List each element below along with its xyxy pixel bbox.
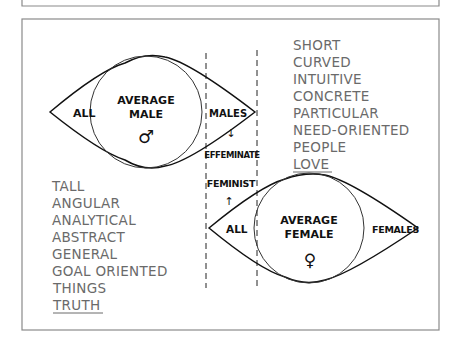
male-trait-underlined: TRUTH [52,297,100,313]
female-traits-list: SHORT CURVED INTUITIVE CONCRETE PARTICUL… [293,37,410,172]
effeminate-label: EFFEMINATE [204,150,260,160]
female-trait: SHORT [293,37,341,53]
female-trait: PEOPLE [293,139,346,155]
male-trait: GENERAL [52,246,117,262]
male-trait: ABSTRACT [52,229,125,245]
male-traits-list: TALL ANGULAR ANALYTICAL ABSTRACT GENERAL… [51,178,168,313]
male-trait: TALL [51,178,85,194]
top-frame [22,0,439,6]
male-trait: ANALYTICAL [52,212,136,228]
female-trait: PARTICULAR [293,105,379,121]
male-center-label-1: AVERAGE [117,94,174,107]
gender-distribution-diagram: ALL AVERAGE MALE ♂ MALES ↓ EFFEMINATE FE… [0,0,465,345]
female-trait: NEED-ORIENTED [293,122,410,138]
female-symbol-icon: ♀ [304,250,316,270]
male-center-label-2: MALE [129,108,163,121]
male-right-label: MALES [209,108,247,119]
female-center-label-1: AVERAGE [280,214,337,227]
male-symbol-icon: ♂ [138,126,154,147]
female-trait-underlined: LOVE [293,156,329,172]
female-lens: ALL AVERAGE FEMALE ♀ FEMALES [209,173,420,283]
female-trait: CONCRETE [293,88,370,104]
female-center-label-2: FEMALE [284,228,333,241]
male-trait: THINGS [52,280,106,296]
male-trait: GOAL ORIENTED [52,263,168,279]
male-left-label: ALL [73,107,96,120]
male-trait: ANGULAR [52,195,120,211]
female-right-label: FEMALES [372,224,420,235]
female-trait: INTUITIVE [293,71,362,87]
up-arrow-icon: ↑ [224,195,233,208]
down-arrow-icon: ↓ [226,127,235,140]
female-left-label: ALL [226,223,248,235]
feminist-label: FEMINIST [207,178,256,189]
female-trait: CURVED [293,54,351,70]
